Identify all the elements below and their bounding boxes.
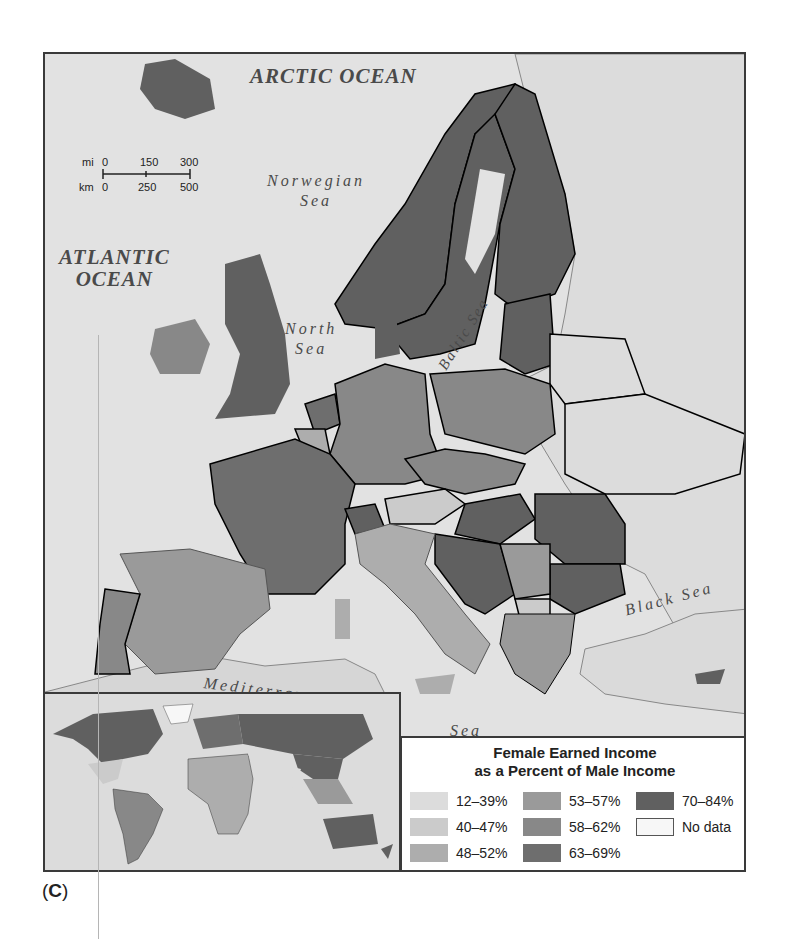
legend-label: 40–47% <box>456 819 507 835</box>
panel-label: (C) <box>42 880 68 902</box>
greenland <box>163 704 193 724</box>
legend-label: 48–52% <box>456 845 507 861</box>
legend-item-58-62: 58–62% <box>523 814 632 840</box>
swatch-40-47 <box>410 818 448 836</box>
legend-label: No data <box>682 819 731 835</box>
swatch-70-84 <box>636 792 674 810</box>
legend-item-no-data: No data <box>636 814 745 840</box>
russia-asia <box>238 714 373 759</box>
poland <box>430 369 555 454</box>
legend-title-line2: as a Percent of Male Income <box>402 762 746 780</box>
ireland <box>150 319 210 374</box>
legend-items: 12–39% 40–47% 48–52% 53–57% 58–62% 63–69… <box>410 788 745 866</box>
north-line1: North <box>285 319 337 339</box>
page-guide-line <box>98 335 99 939</box>
bulgaria <box>550 564 625 614</box>
scale-line <box>102 169 192 179</box>
united-kingdom <box>215 254 290 419</box>
iceland <box>140 59 215 119</box>
legend-title: Female Earned Income as a Percent of Mal… <box>402 744 746 780</box>
australia <box>323 814 378 849</box>
north-line2: Sea <box>285 339 337 359</box>
legend-title-line1: Female Earned Income <box>402 744 746 762</box>
atlantic-line2: OCEAN <box>59 268 170 290</box>
legend-label: 63–69% <box>569 845 620 861</box>
europe-inset <box>193 714 243 749</box>
baltic-states <box>500 294 555 374</box>
czech-slovakia <box>405 449 525 494</box>
legend-item-63-69: 63–69% <box>523 840 632 866</box>
southeast-asia <box>303 779 353 804</box>
africa <box>188 754 253 834</box>
legend-item-53-57: 53–57% <box>523 788 632 814</box>
scale-mi-tick-2: 300 <box>180 156 198 168</box>
spain <box>120 549 270 674</box>
swatch-no-data <box>636 818 674 836</box>
swatch-12-39 <box>410 792 448 810</box>
arctic-ocean-label: ARCTIC OCEAN <box>250 64 417 89</box>
panel-paren-close: ) <box>62 880 68 901</box>
swatch-48-52 <box>410 844 448 862</box>
new-zealand <box>381 844 393 859</box>
norwegian-line2: Sea <box>267 191 365 211</box>
netherlands <box>305 394 340 434</box>
north-sea-label: North Sea <box>285 319 337 359</box>
legend-label: 12–39% <box>456 793 507 809</box>
atlantic-line1: ATLANTIC <box>59 246 170 268</box>
middle-east <box>248 754 283 779</box>
sardinia <box>335 599 350 639</box>
legend-item-40-47: 40–47% <box>410 814 519 840</box>
swatch-63-69 <box>523 844 561 862</box>
legend-item-12-39: 12–39% <box>410 788 519 814</box>
austria <box>385 489 465 524</box>
scale-bar: mi 0 150 300 km 0 250 500 <box>82 156 232 206</box>
sicily <box>415 674 455 694</box>
swatch-58-62 <box>523 818 561 836</box>
hungary <box>455 494 535 544</box>
legend-label: 53–57% <box>569 793 620 809</box>
legend-label: 58–62% <box>569 819 620 835</box>
swatch-53-57 <box>523 792 561 810</box>
legend-item-48-52: 48–52% <box>410 840 519 866</box>
panel-letter: C <box>48 880 62 901</box>
legend-label: 70–84% <box>682 793 733 809</box>
south-america <box>113 789 163 864</box>
scale-mi-tick-1: 150 <box>140 156 158 168</box>
scale-km-label: km <box>79 181 94 193</box>
greece <box>500 614 575 694</box>
north-america <box>53 709 163 764</box>
scale-km-tick-0: 0 <box>102 181 108 193</box>
atlantic-ocean-label: ATLANTIC OCEAN <box>59 246 170 290</box>
europe-map: ARCTIC OCEAN ATLANTIC OCEAN Norwegian Se… <box>43 52 746 872</box>
legend: Female Earned Income as a Percent of Mal… <box>400 736 746 872</box>
scale-mi-label: mi <box>82 156 94 168</box>
norwegian-sea-label: Norwegian Sea <box>267 171 365 211</box>
world-map-graphic <box>43 694 401 872</box>
turkey-region <box>580 609 746 714</box>
scale-km-tick-2: 500 <box>180 181 198 193</box>
legend-item-70-84: 70–84% <box>636 788 745 814</box>
norwegian-line1: Norwegian <box>267 171 365 191</box>
central-america <box>88 759 123 784</box>
scale-mi-tick-0: 0 <box>102 156 108 168</box>
world-inset-map <box>43 692 401 872</box>
scale-km-tick-1: 250 <box>138 181 156 193</box>
